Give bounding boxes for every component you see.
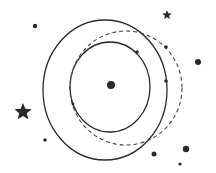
orbit-point-dot bbox=[135, 50, 139, 54]
outer-orbit bbox=[43, 20, 167, 160]
orbit-point-dot bbox=[164, 45, 168, 49]
orbit-diagram-svg bbox=[0, 0, 216, 173]
star-dot bbox=[152, 152, 157, 157]
star-dot bbox=[195, 59, 201, 65]
small-star-icon bbox=[162, 10, 172, 19]
star-dot bbox=[33, 24, 37, 28]
center-body-dot bbox=[107, 81, 115, 89]
star-dot bbox=[178, 162, 181, 165]
orbit-point-dot bbox=[164, 79, 168, 83]
orbit-diagram bbox=[0, 0, 216, 173]
star-dot bbox=[183, 146, 189, 152]
large-star-icon bbox=[14, 103, 31, 119]
star-dot bbox=[43, 138, 47, 142]
orbit-point-dot bbox=[72, 103, 75, 106]
